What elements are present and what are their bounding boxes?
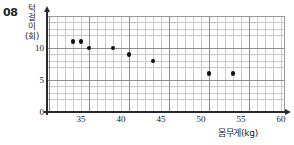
x-tick-label: 35 [69,114,93,124]
x-tick-label: 55 [229,114,253,124]
figure-root: 08 턱 걸 이 (회) 0510 354045505560 몸무게(kg) [0,0,294,145]
x-tick-label: 40 [109,114,133,124]
x-tick-label: 50 [189,114,213,124]
x-tick-label: 45 [149,114,173,124]
x-tick-label: 60 [269,114,293,124]
x-tick-labels: 354045505560 [0,0,294,145]
x-axis-title: 몸무게(kg) [218,126,258,139]
